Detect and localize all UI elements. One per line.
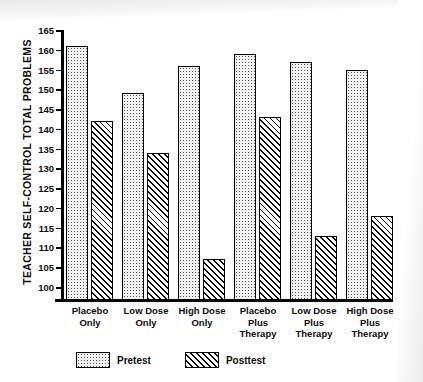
y-tick-mark bbox=[56, 70, 62, 72]
y-tick-mark bbox=[56, 228, 62, 230]
legend-entry: Posttest bbox=[185, 352, 265, 368]
x-axis-label-line: High Dose bbox=[336, 305, 404, 317]
y-tick-label: 145 bbox=[38, 104, 54, 115]
y-tick-mark bbox=[56, 168, 62, 170]
y-tick-label: 100 bbox=[38, 281, 54, 292]
y-tick-label: 120 bbox=[38, 202, 54, 213]
bar-pretest bbox=[66, 46, 88, 300]
y-tick-label: 165 bbox=[38, 25, 54, 36]
bar-group bbox=[290, 30, 346, 300]
legend-entry: Pretest bbox=[76, 352, 151, 368]
y-tick-mark bbox=[56, 109, 62, 111]
y-tick-mark bbox=[56, 50, 62, 52]
y-tick-label: 160 bbox=[38, 44, 54, 55]
bar-pretest bbox=[346, 70, 368, 300]
legend-label: Pretest bbox=[117, 355, 151, 366]
bar-group bbox=[178, 30, 234, 300]
y-axis-title: TEACHER SELF-CONTROL TOTAL PROBLEMS bbox=[21, 7, 33, 317]
y-tick-mark bbox=[56, 129, 62, 131]
y-tick-label: 115 bbox=[39, 222, 54, 233]
scan-edge-top bbox=[0, 0, 423, 22]
bar-group bbox=[346, 30, 402, 300]
bar-group bbox=[122, 30, 178, 300]
y-tick-label: 140 bbox=[38, 123, 54, 134]
bar-posttest bbox=[147, 153, 169, 300]
y-tick-mark bbox=[56, 89, 62, 91]
bar-posttest bbox=[91, 121, 113, 300]
bar-posttest bbox=[259, 117, 281, 300]
bar-pretest bbox=[234, 54, 256, 300]
y-tick-label: 135 bbox=[38, 143, 54, 154]
y-tick-mark bbox=[56, 287, 62, 289]
bar-chart-figure: TEACHER SELF-CONTROL TOTAL PROBLEMS 1001… bbox=[0, 0, 423, 382]
bar-posttest bbox=[203, 259, 225, 300]
pretest-swatch bbox=[76, 352, 110, 368]
y-tick-label: 125 bbox=[38, 183, 54, 194]
plot-area: 1001051101151201251301351401451501551601… bbox=[62, 30, 398, 300]
bar-pretest bbox=[122, 93, 144, 300]
x-axis-label-line: Therapy bbox=[336, 328, 404, 340]
bar-posttest bbox=[315, 236, 337, 300]
y-tick-mark bbox=[56, 247, 62, 249]
y-tick-label: 130 bbox=[38, 163, 54, 174]
y-tick-label: 155 bbox=[38, 64, 54, 75]
y-tick-mark bbox=[56, 30, 62, 32]
bar-group bbox=[234, 30, 290, 300]
y-tick-label: 105 bbox=[38, 262, 54, 273]
y-tick-label: 110 bbox=[39, 242, 54, 253]
x-axis-label: High DosePlusTherapy bbox=[336, 305, 404, 340]
bar-pretest bbox=[290, 62, 312, 300]
bar-pretest bbox=[178, 66, 200, 300]
y-tick-label: 150 bbox=[38, 84, 54, 95]
bar-group bbox=[66, 30, 122, 300]
posttest-swatch bbox=[185, 352, 219, 368]
y-tick-mark bbox=[56, 208, 62, 210]
x-axis-label-line: Plus bbox=[336, 317, 404, 329]
y-tick-mark bbox=[56, 188, 62, 190]
legend-label: Posttest bbox=[226, 355, 265, 366]
bar-posttest bbox=[371, 216, 393, 300]
y-tick-mark bbox=[56, 267, 62, 269]
y-tick-mark bbox=[56, 149, 62, 151]
chart-legend: PretestPosttest bbox=[76, 352, 265, 368]
